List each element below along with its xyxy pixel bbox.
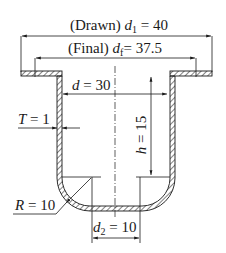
cup-cross-section-diagram: (Drawn) d1 = 40 (Final) df= 37.5 d = 30 …: [0, 0, 226, 253]
height-dimension: h = 15: [133, 77, 170, 177]
thickness-dimension: T = 1: [18, 111, 80, 128]
radius-label: R = 10: [14, 197, 55, 213]
final-diameter-label: (Final) df= 37.5: [68, 40, 162, 58]
inner-diameter-label: d = 30: [72, 77, 110, 93]
bottom-diameter-label: d2 = 10: [93, 219, 136, 237]
height-label: h = 15: [133, 116, 149, 154]
cup-body: [21, 71, 212, 211]
drawn-diameter-label: (Drawn) d1 = 40: [70, 17, 168, 35]
thickness-label: T = 1: [18, 111, 50, 127]
